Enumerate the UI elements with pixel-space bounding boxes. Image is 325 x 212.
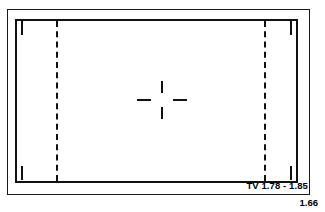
corner-tick-bottom-left [21,166,23,180]
crosshair-stroke-top [161,81,163,93]
tv-format-label: TV 1.78 - 1.85 [246,180,308,191]
viewfinder-framing-chart: TV 1.78 - 1.85 1.66 [0,0,325,212]
ground-glass-ratio-label: 1.66 [300,197,319,208]
corner-tick-top-left [21,21,23,35]
crosshair-stroke-right [173,99,187,101]
crosshair-stroke-bottom [161,107,163,119]
corner-tick-bottom-right [290,166,292,180]
dashed-guide-line-left [56,21,58,181]
corner-tick-top-right [290,21,292,35]
crosshair-stroke-left [137,99,151,101]
dashed-guide-line-right [264,21,266,181]
